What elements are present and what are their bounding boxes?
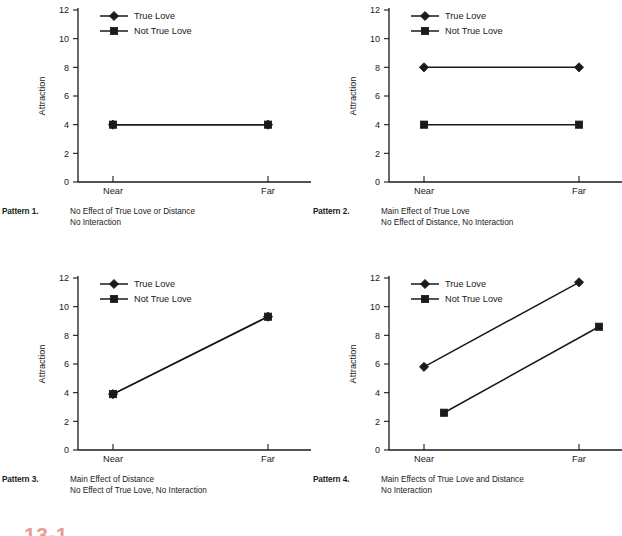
pattern-label: Pattern 2.	[313, 207, 381, 218]
svg-text:6: 6	[375, 359, 380, 369]
svg-text:4: 4	[64, 388, 69, 398]
svg-text:Far: Far	[261, 454, 275, 464]
svg-text:12: 12	[370, 5, 380, 15]
svg-text:0: 0	[64, 445, 69, 455]
figure-number: 13-1	[24, 524, 68, 536]
svg-text:12: 12	[59, 273, 69, 283]
caption-line-2: No Effect of True Love, No Interaction	[70, 486, 310, 497]
svg-text:Attraction: Attraction	[37, 345, 47, 384]
plot-area-pattern-3: 024681012NearFarDistanceAttractionTrue L…	[0, 268, 311, 468]
svg-text:2: 2	[375, 417, 380, 427]
svg-text:8: 8	[64, 63, 69, 73]
svg-text:True Love: True Love	[445, 279, 486, 289]
panel-caption-pattern-1: Pattern 1. No Effect of True Love or Dis…	[2, 207, 310, 228]
svg-text:0: 0	[64, 177, 69, 187]
chart-svg: 024681012NearFarDistanceAttractionTrue L…	[0, 0, 311, 200]
chart-panel-pattern-2: 024681012NearFarDistanceAttractionTrue L…	[311, 0, 622, 268]
svg-text:0: 0	[375, 177, 380, 187]
panel-caption-pattern-3: Pattern 3. Main Effect of Distance No Ef…	[2, 475, 310, 496]
svg-text:Near: Near	[103, 186, 123, 196]
svg-text:Far: Far	[261, 186, 275, 196]
plot-area-pattern-4: 024681012NearFarDistanceAttractionTrue L…	[311, 268, 622, 468]
figure-container: 024681012NearFarDistanceAttractionTrue L…	[0, 0, 622, 536]
svg-text:True Love: True Love	[134, 11, 175, 21]
plot-area-pattern-1: 024681012NearFarDistanceAttractionTrue L…	[0, 0, 311, 200]
svg-text:Not True Love: Not True Love	[445, 294, 503, 304]
svg-text:10: 10	[370, 302, 380, 312]
svg-text:Far: Far	[572, 454, 586, 464]
svg-text:0: 0	[375, 445, 380, 455]
panel-caption-pattern-4: Pattern 4. Main Effects of True Love and…	[313, 475, 621, 496]
pattern-label: Pattern 3.	[2, 475, 70, 486]
svg-text:Near: Near	[414, 186, 434, 196]
panel-caption-pattern-2: Pattern 2. Main Effect of True Love No E…	[313, 207, 621, 228]
chart-panel-pattern-3: 024681012NearFarDistanceAttractionTrue L…	[0, 268, 311, 536]
caption-line-1: Main Effect of Distance	[70, 475, 310, 486]
pattern-label: Pattern 4.	[313, 475, 381, 486]
caption-line-2: No Effect of Distance, No Interaction	[381, 218, 621, 229]
svg-text:4: 4	[64, 120, 69, 130]
caption-line-1: Main Effect of True Love	[381, 207, 621, 218]
svg-text:Attraction: Attraction	[348, 345, 358, 384]
pattern-description: Main Effect of True Love No Effect of Di…	[381, 207, 621, 228]
pattern-description: Main Effects of True Love and Distance N…	[381, 475, 621, 496]
svg-text:Not True Love: Not True Love	[134, 294, 192, 304]
caption-line-1: Main Effects of True Love and Distance	[381, 475, 621, 486]
caption-line-2: No Interaction	[70, 218, 310, 229]
svg-text:Near: Near	[103, 454, 123, 464]
svg-text:True Love: True Love	[445, 11, 486, 21]
svg-text:Far: Far	[572, 186, 586, 196]
svg-text:6: 6	[375, 91, 380, 101]
plot-area-pattern-2: 024681012NearFarDistanceAttractionTrue L…	[311, 0, 622, 200]
svg-text:4: 4	[375, 120, 380, 130]
caption-line-2: No Interaction	[381, 486, 621, 497]
pattern-description: No Effect of True Love or Distance No In…	[70, 207, 310, 228]
svg-text:6: 6	[64, 359, 69, 369]
pattern-description: Main Effect of Distance No Effect of Tru…	[70, 475, 310, 496]
svg-text:6: 6	[64, 91, 69, 101]
chart-panel-pattern-4: 024681012NearFarDistanceAttractionTrue L…	[311, 268, 622, 536]
svg-text:2: 2	[64, 149, 69, 159]
svg-text:True Love: True Love	[134, 279, 175, 289]
svg-text:2: 2	[64, 417, 69, 427]
chart-panel-pattern-1: 024681012NearFarDistanceAttractionTrue L…	[0, 0, 311, 268]
svg-text:10: 10	[59, 34, 69, 44]
svg-text:12: 12	[370, 273, 380, 283]
svg-text:Not True Love: Not True Love	[445, 26, 503, 36]
chart-svg: 024681012NearFarDistanceAttractionTrue L…	[0, 268, 311, 468]
svg-text:2: 2	[375, 149, 380, 159]
svg-text:8: 8	[64, 331, 69, 341]
svg-text:4: 4	[375, 388, 380, 398]
svg-text:10: 10	[59, 302, 69, 312]
chart-svg: 024681012NearFarDistanceAttractionTrue L…	[311, 0, 622, 200]
pattern-label: Pattern 1.	[2, 207, 70, 218]
svg-text:Attraction: Attraction	[37, 77, 47, 116]
svg-text:Near: Near	[414, 454, 434, 464]
svg-text:Attraction: Attraction	[348, 77, 358, 116]
caption-line-1: No Effect of True Love or Distance	[70, 207, 310, 218]
chart-svg: 024681012NearFarDistanceAttractionTrue L…	[311, 268, 622, 468]
svg-text:10: 10	[370, 34, 380, 44]
svg-text:8: 8	[375, 63, 380, 73]
svg-text:Not True Love: Not True Love	[134, 26, 192, 36]
svg-text:12: 12	[59, 5, 69, 15]
svg-text:8: 8	[375, 331, 380, 341]
